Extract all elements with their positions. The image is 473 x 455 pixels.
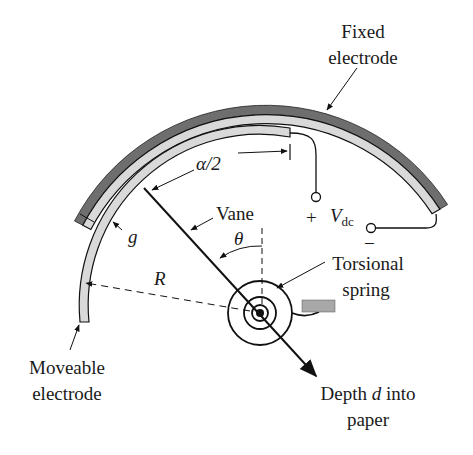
moveable-electrode xyxy=(79,125,290,322)
vane-label: Vane xyxy=(216,203,254,224)
svg-text:Fixed: Fixed xyxy=(341,21,385,42)
minus-terminal xyxy=(367,224,376,233)
svg-text:paper: paper xyxy=(347,409,390,430)
fixed-electrode xyxy=(75,105,448,229)
torsional-spring xyxy=(228,262,335,345)
voltage-source: + Vdc − xyxy=(290,133,436,254)
spring-anchor xyxy=(302,300,335,312)
svg-text:electrode: electrode xyxy=(328,47,398,68)
moveable-electrode-callout: Moveable electrode xyxy=(29,325,105,404)
actuator-diagram: g α/2 Vane θ R + xyxy=(0,0,473,455)
torsional-spring-callout: Torsional spring xyxy=(332,253,404,300)
theta-label: θ xyxy=(234,228,243,249)
minus-sign: − xyxy=(364,233,375,254)
svg-text:Moveable: Moveable xyxy=(29,357,105,378)
gap-indicator: g xyxy=(113,222,138,247)
svg-text:Depth d into: Depth d into xyxy=(321,383,416,404)
radius-indicator: R xyxy=(86,268,250,311)
gap-label: g xyxy=(128,226,138,247)
svg-text:Torsional: Torsional xyxy=(332,253,404,274)
vdc-label: Vdc xyxy=(330,205,354,229)
vane: Vane xyxy=(144,188,316,376)
fixed-electrode-callout: Fixed electrode xyxy=(327,21,398,110)
alpha-half-label: α/2 xyxy=(196,153,221,174)
plus-sign: + xyxy=(306,207,317,228)
svg-text:spring: spring xyxy=(342,279,390,300)
plus-terminal xyxy=(312,193,321,202)
svg-text:electrode: electrode xyxy=(32,383,102,404)
depth-callout: Depth d into paper xyxy=(321,383,416,430)
radius-label: R xyxy=(153,268,166,289)
